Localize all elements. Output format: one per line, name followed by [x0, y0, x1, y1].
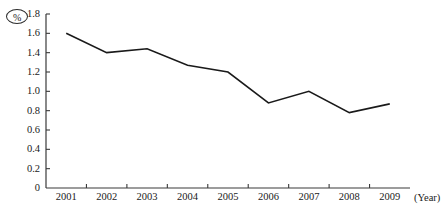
line-chart: % (Year) 00.20.40.60.81.01.21.41.61.8 20… — [0, 0, 448, 214]
data-series-line — [66, 33, 390, 112]
plot-area — [0, 0, 448, 214]
axes — [46, 14, 410, 188]
